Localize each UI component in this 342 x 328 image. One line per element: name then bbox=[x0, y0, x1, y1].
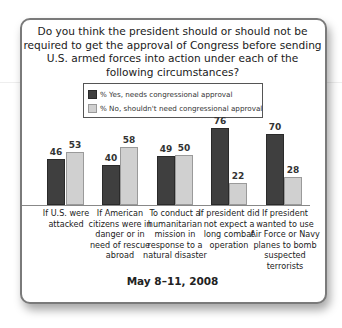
value-label-no-1: 53 bbox=[64, 140, 86, 150]
value-label-no-4: 22 bbox=[227, 171, 249, 181]
bar-no-4 bbox=[229, 183, 247, 205]
bar-yes-4 bbox=[211, 128, 229, 205]
chart-title: Do you think the president should or sho… bbox=[22, 25, 323, 79]
category-label-5: If president wanted to use Air Force or … bbox=[250, 208, 320, 272]
legend-item-yes: % Yes, needs congressional approval bbox=[88, 88, 232, 100]
legend-swatch-yes bbox=[88, 90, 97, 99]
value-label-yes-2: 40 bbox=[100, 153, 122, 163]
legend-swatch-no bbox=[88, 104, 97, 113]
survey-date: May 8–11, 2008 bbox=[22, 275, 323, 287]
bar-no-5 bbox=[284, 177, 302, 205]
bar-yes-3 bbox=[157, 156, 175, 205]
legend-label-yes: % Yes, needs congressional approval bbox=[100, 90, 232, 99]
legend-label-no: % No, shouldn't need congressional appro… bbox=[100, 104, 262, 113]
legend-item-no: % No, shouldn't need congressional appro… bbox=[88, 102, 262, 114]
bar-yes-2 bbox=[102, 165, 120, 205]
bar-no-2 bbox=[120, 147, 138, 205]
value-label-no-5: 28 bbox=[282, 165, 304, 175]
bar-no-3 bbox=[175, 155, 193, 205]
value-label-no-2: 58 bbox=[118, 135, 140, 145]
x-axis-baseline bbox=[22, 205, 310, 206]
bar-yes-1 bbox=[47, 159, 65, 205]
value-label-no-3: 50 bbox=[173, 143, 195, 153]
bar-no-1 bbox=[66, 152, 84, 205]
value-label-yes-5: 70 bbox=[264, 122, 286, 132]
legend: % Yes, needs congressional approval % No… bbox=[83, 83, 263, 118]
value-label-yes-4: 76 bbox=[209, 116, 231, 126]
